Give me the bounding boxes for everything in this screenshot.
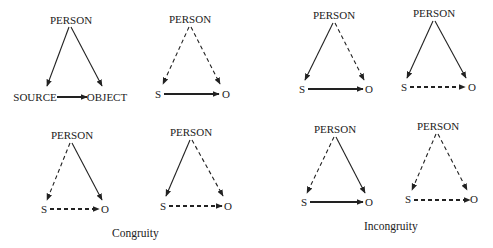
- person-to-object-arrow: [72, 143, 102, 200]
- person-to-source-arrow: [47, 143, 70, 200]
- triangle-3: PERSONSO: [299, 9, 373, 95]
- balance-theory-diagram: PERSONSOURCEOBJECTPERSONSOPERSONSOPERSON…: [0, 0, 493, 248]
- incongruity-caption: Incongruity: [364, 220, 418, 233]
- person-label: PERSON: [313, 9, 355, 21]
- person-label: PERSON: [50, 14, 92, 26]
- object-label: O: [101, 203, 109, 215]
- triangle-5: PERSONSO: [41, 129, 109, 215]
- person-to-object-arrow: [335, 23, 364, 80]
- triangles: PERSONSOURCEOBJECTPERSONSOPERSONSOPERSON…: [13, 7, 478, 215]
- source-label: S: [405, 193, 411, 205]
- person-to-object-arrow: [71, 27, 102, 86]
- person-to-object-arrow: [192, 140, 223, 196]
- source-label: S: [155, 88, 161, 100]
- person-label: PERSON: [51, 129, 93, 141]
- person-label: PERSON: [170, 126, 212, 138]
- person-label: PERSON: [413, 7, 455, 19]
- person-to-object-arrow: [191, 27, 220, 84]
- triangle-2: PERSONSO: [155, 13, 230, 100]
- person-to-source-arrow: [163, 27, 189, 84]
- person-to-source-arrow: [412, 134, 436, 190]
- source-label: SOURCE: [13, 91, 57, 103]
- triangle-6: PERSONSO: [160, 126, 232, 212]
- person-to-source-arrow: [166, 140, 190, 196]
- person-to-source-arrow: [305, 23, 333, 80]
- person-to-object-arrow: [336, 137, 365, 193]
- person-label: PERSON: [314, 123, 356, 135]
- person-to-object-arrow: [438, 134, 467, 190]
- source-label: S: [299, 83, 305, 95]
- person-to-source-arrow: [307, 137, 334, 193]
- congruity-caption: Congruity: [112, 227, 159, 240]
- object-label: O: [365, 83, 373, 95]
- person-to-source-arrow: [47, 27, 69, 86]
- source-label: S: [41, 203, 47, 215]
- object-label: O: [470, 193, 478, 205]
- object-label: OBJECT: [87, 91, 128, 103]
- source-label: S: [160, 200, 166, 212]
- triangle-8: PERSONSO: [405, 120, 478, 205]
- source-label: S: [401, 81, 407, 93]
- object-label: O: [222, 88, 230, 100]
- person-label: PERSON: [417, 120, 459, 132]
- triangle-7: PERSONSO: [301, 123, 373, 208]
- triangle-1: PERSONSOURCEOBJECT: [13, 14, 127, 103]
- person-label: PERSON: [169, 13, 211, 25]
- object-label: O: [224, 200, 232, 212]
- person-to-source-arrow: [407, 21, 433, 78]
- object-label: O: [365, 196, 373, 208]
- triangle-4: PERSONSO: [401, 7, 476, 93]
- source-label: S: [301, 196, 307, 208]
- object-label: O: [468, 81, 476, 93]
- person-to-object-arrow: [435, 21, 466, 78]
